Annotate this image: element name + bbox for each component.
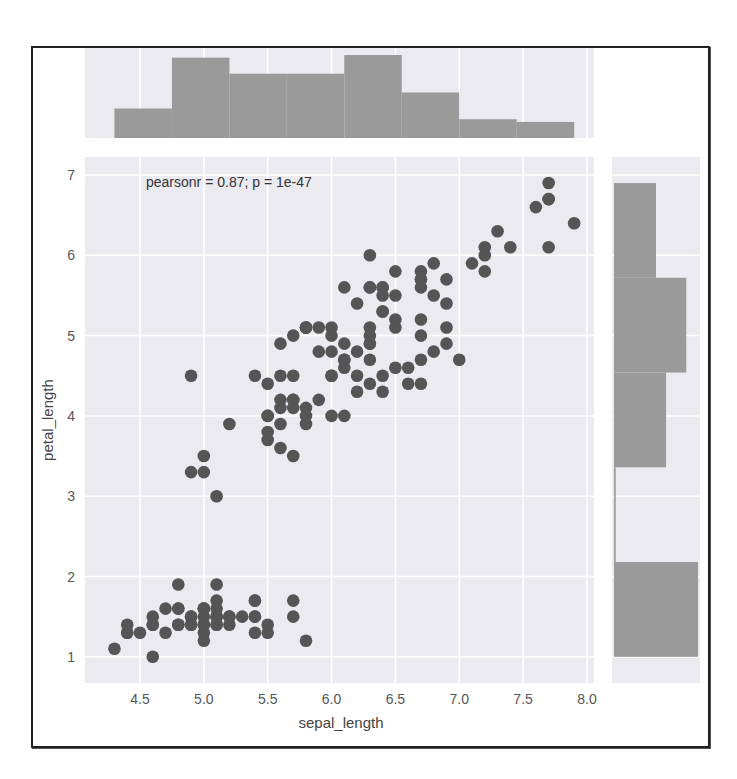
data-point — [287, 594, 300, 607]
data-point — [261, 434, 274, 447]
data-point — [504, 241, 517, 254]
histogram-bar — [614, 278, 686, 373]
data-point — [287, 402, 300, 415]
data-point — [325, 369, 338, 382]
data-point — [287, 610, 300, 623]
y-tick-label: 6 — [67, 247, 75, 263]
histogram-bar — [402, 92, 459, 138]
data-point — [185, 618, 198, 631]
data-point — [121, 626, 134, 639]
data-point — [542, 193, 555, 206]
x-tick-label: 5.0 — [194, 691, 214, 707]
data-point — [415, 273, 428, 286]
pearson-annotation: pearsonr = 0.87; p = 1e-47 — [146, 174, 312, 190]
histogram-bar — [172, 58, 229, 138]
data-point — [287, 369, 300, 382]
data-point — [159, 626, 172, 639]
data-point — [364, 329, 377, 342]
x-axis-label: sepal_length — [298, 714, 383, 731]
data-point — [146, 651, 159, 664]
data-point — [198, 466, 211, 479]
data-point — [376, 289, 389, 302]
data-point — [440, 273, 453, 286]
data-point — [415, 313, 428, 326]
data-point — [198, 618, 211, 631]
data-point — [364, 281, 377, 294]
data-point — [338, 361, 351, 374]
histogram-bar — [614, 373, 666, 468]
data-point — [389, 289, 402, 302]
data-point — [351, 386, 364, 399]
data-point — [223, 418, 236, 431]
data-point — [300, 321, 313, 334]
marginal-y-histogram — [612, 157, 700, 683]
data-point — [389, 265, 402, 278]
data-point — [274, 337, 287, 350]
data-point — [351, 369, 364, 382]
data-point — [530, 201, 543, 214]
data-point — [146, 618, 159, 631]
data-point — [172, 618, 185, 631]
data-point — [440, 297, 453, 310]
data-point — [427, 257, 440, 270]
data-point — [415, 353, 428, 366]
histogram-bar — [287, 74, 344, 138]
data-point — [376, 386, 389, 399]
data-point — [325, 329, 338, 342]
data-point — [376, 305, 389, 318]
y-tick-label: 2 — [67, 569, 75, 585]
x-tick-label: 6.0 — [322, 691, 342, 707]
data-point — [491, 225, 504, 238]
histogram-bar — [459, 119, 516, 138]
histogram-bar — [229, 74, 286, 138]
data-point — [159, 602, 172, 615]
data-point — [274, 442, 287, 455]
y-tick-label: 5 — [67, 328, 75, 344]
data-point — [402, 377, 415, 390]
data-point — [287, 329, 300, 342]
data-point — [185, 466, 198, 479]
data-point — [325, 345, 338, 358]
data-point — [478, 249, 491, 262]
data-point — [351, 297, 364, 310]
histogram-bar — [614, 183, 656, 278]
histogram-bar — [517, 122, 574, 138]
x-tick-label: 4.5 — [130, 691, 150, 707]
data-point — [312, 394, 325, 407]
data-point — [453, 353, 466, 366]
data-point — [198, 602, 211, 615]
data-point — [415, 377, 428, 390]
data-point — [338, 337, 351, 350]
data-point — [236, 610, 249, 623]
data-point — [312, 321, 325, 334]
data-point — [312, 345, 325, 358]
x-tick-label: 7.0 — [450, 691, 470, 707]
data-point — [210, 602, 223, 615]
data-point — [249, 626, 262, 639]
data-point — [249, 369, 262, 382]
data-point — [427, 345, 440, 358]
x-tick-label: 8.0 — [577, 691, 597, 707]
data-point — [261, 377, 274, 390]
data-point — [402, 361, 415, 374]
data-point — [249, 610, 262, 623]
data-point — [466, 257, 479, 270]
data-point — [274, 418, 287, 431]
histogram-bar — [114, 109, 171, 138]
y-tick-label: 4 — [67, 408, 75, 424]
data-point — [389, 313, 402, 326]
data-point — [274, 394, 287, 407]
data-point — [261, 410, 274, 423]
x-tick-label: 6.5 — [386, 691, 406, 707]
data-point — [172, 578, 185, 591]
data-point — [210, 490, 223, 503]
data-point — [364, 377, 377, 390]
y-tick-label: 7 — [67, 167, 75, 183]
histogram-bar — [344, 55, 401, 138]
histogram-bar — [614, 562, 698, 657]
histogram-bar — [614, 467, 616, 562]
data-point — [364, 353, 377, 366]
data-point — [568, 217, 581, 230]
data-point — [172, 602, 185, 615]
data-point — [261, 626, 274, 639]
